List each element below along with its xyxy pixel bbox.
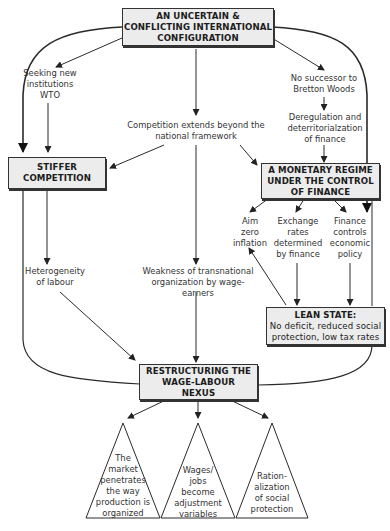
box-line: OF FINANCE (262, 187, 379, 198)
label-line: Seeking new (18, 68, 82, 79)
box-line: WAGE-LABOUR (140, 377, 257, 388)
label-finance-controls: Finance controls economic policy (326, 216, 374, 260)
triangle-line: production is (90, 497, 156, 508)
label-line: of labour (22, 277, 88, 288)
label-no-successor: No successor to Bretton Woods (284, 73, 364, 95)
label-line: policy (326, 249, 374, 260)
label-aim-zero-inflation: Aim zero inflation (228, 216, 272, 249)
box-line: protection, low tax rates (267, 332, 384, 343)
triangle-line: Ration- (242, 471, 302, 482)
triangle-line: of social (242, 493, 302, 504)
label-line: organization by wage-earners (136, 277, 260, 299)
triangle-line: become (165, 487, 231, 498)
box-line: CONFLICTING INTERNATIONAL (123, 22, 273, 33)
triangle-line: market (90, 464, 156, 475)
box-restructuring-wage-labour-nexus: RESTRUCTURING THE WAGE-LABOUR NEXUS (139, 364, 258, 400)
label-heterogeneity-of-labour: Heterogeneity of labour (22, 266, 88, 288)
label-line: Competition extends beyond the (121, 120, 271, 131)
triangle-line: the way (90, 486, 156, 497)
lean-state-title: LEAN STATE: (267, 310, 384, 321)
label-exchange-rates: Exchange rates determined by finance (272, 216, 324, 260)
box-line: NEXUS (140, 388, 257, 399)
label-line: Finance (326, 216, 374, 227)
box-stiffer-competition: STIFFER COMPETITION (8, 157, 106, 189)
box-line: UNDER THE CONTROL (262, 176, 379, 187)
label-line: Exchange (272, 216, 324, 227)
label-seeking-new-institutions: Seeking new institutions WTO (18, 68, 82, 101)
label-line: controls (326, 227, 374, 238)
label-line: rates (272, 227, 324, 238)
box-international-configuration: AN UNCERTAIN & CONFLICTING INTERNATIONAL… (122, 8, 274, 46)
box-line: AN UNCERTAIN & (123, 11, 273, 22)
label-line: by finance (272, 249, 324, 260)
box-monetary-regime: A MONETARY REGIME UNDER THE CONTROL OF F… (261, 163, 380, 199)
label-line: No successor to (284, 73, 364, 84)
triangle-line: adjustment (165, 498, 231, 509)
triangle-line: protection (242, 504, 302, 515)
triangle-line: penetrates (90, 475, 156, 486)
triangle-text-wages-jobs: Wages/ jobs become adjustment variables (165, 465, 231, 520)
label-line: deterritorialzation (282, 123, 368, 134)
triangle-line: alization (242, 482, 302, 493)
label-line: institutions (18, 79, 82, 90)
box-line: COMPETITION (9, 173, 105, 184)
label-line: of finance (282, 134, 368, 145)
label-line: WTO (18, 90, 82, 101)
label-line: determined (272, 238, 324, 249)
label-deregulation: Deregulation and deterritorialzation of … (282, 112, 368, 145)
box-line: A MONETARY REGIME (262, 165, 379, 176)
triangle-line: Wages/ (165, 465, 231, 476)
label-line: inflation (228, 238, 272, 249)
triangle-line: organized (90, 508, 156, 519)
triangle-line: The (90, 453, 156, 464)
label-line: economic (326, 238, 374, 249)
label-line: Deregulation and (282, 112, 368, 123)
triangle-text-market-penetrates: The market penetrates the way production… (90, 453, 156, 519)
label-line: zero (228, 227, 272, 238)
box-line: RESTRUCTURING THE (140, 366, 257, 377)
box-lean-state: LEAN STATE: No deficit, reduced social p… (266, 307, 385, 345)
label-line: Heterogeneity (22, 266, 88, 277)
box-line: STIFFER (9, 162, 105, 173)
label-line: Bretton Woods (284, 84, 364, 95)
label-line: Aim (228, 216, 272, 227)
box-line: No deficit, reduced social (267, 321, 384, 332)
label-competition-extends: Competition extends beyond the national … (121, 120, 271, 142)
label-line: Weakness of transnational (136, 266, 260, 277)
box-line: CONFIGURATION (123, 33, 273, 44)
label-line: national framework (121, 131, 271, 142)
triangle-line: jobs (165, 476, 231, 487)
label-weakness-transnational: Weakness of transnational organization b… (136, 266, 260, 299)
triangle-text-rationalization: Ration- alization of social protection (242, 471, 302, 515)
triangle-line: variables (165, 509, 231, 520)
